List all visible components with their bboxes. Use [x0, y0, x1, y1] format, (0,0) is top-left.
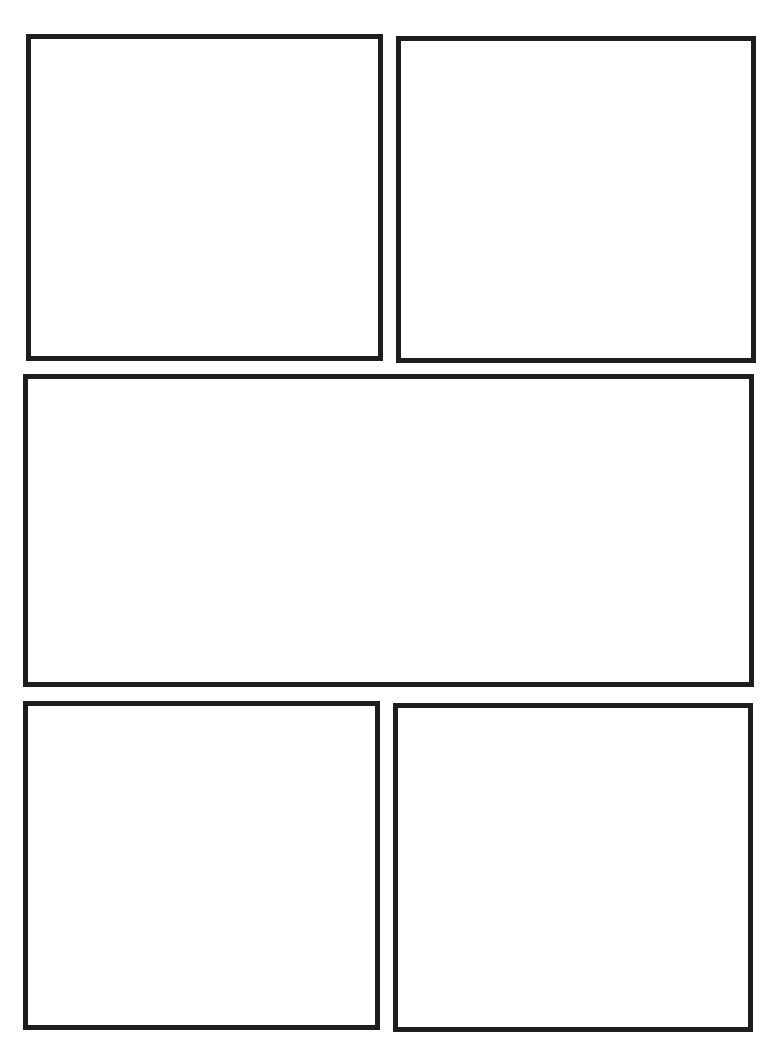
- panel-middle-wide: [23, 374, 754, 687]
- comic-page: [0, 0, 762, 1059]
- panel-bottom-left: [23, 701, 380, 1030]
- panel-top-right: [396, 36, 756, 363]
- panel-bottom-right: [393, 703, 753, 1032]
- panel-top-left: [26, 34, 383, 361]
